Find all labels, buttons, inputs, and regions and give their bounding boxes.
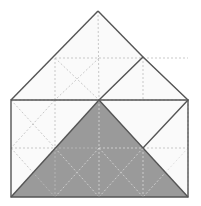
figure-canvas — [0, 0, 201, 206]
geometric-figure — [0, 0, 201, 206]
